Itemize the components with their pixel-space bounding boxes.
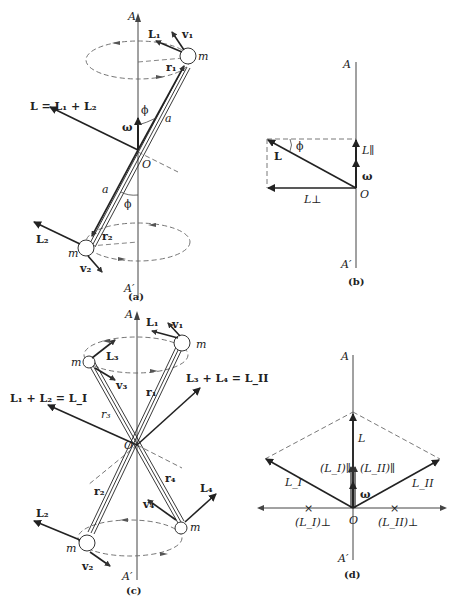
panel-a: A A′ [30, 10, 208, 302]
omega-label: ω [360, 488, 371, 501]
m3-label: m [71, 356, 81, 369]
axis-top-label: A [340, 350, 349, 363]
LII-perp-label: (L_II)⊥ [378, 516, 418, 529]
m-bottom-label: m [68, 247, 78, 260]
axis-top-label: A [127, 10, 136, 23]
axis-bottom-label: A′ [340, 258, 352, 271]
omega-label: ω [122, 121, 133, 134]
caption-b: (b) [348, 276, 364, 287]
r1-label: r₁ [166, 61, 177, 74]
L-label: L [274, 150, 282, 163]
L-par-label: L∥ [361, 144, 374, 157]
caption-c: (c) [126, 585, 142, 596]
r2-label: r₂ [102, 230, 113, 243]
mass-top [180, 48, 196, 64]
v2-label: v₂ [81, 560, 93, 573]
L-total-label: L = L₁ + L₂ [30, 100, 97, 113]
v3-label: v₃ [115, 379, 127, 392]
LII-par-label: (L_II)∥ [360, 462, 395, 475]
L1-label: L₁ [148, 28, 161, 41]
perp-I-mark: × [304, 502, 313, 515]
L-label: L [357, 432, 365, 445]
LI-perp-label: (L_I)⊥ [295, 516, 331, 529]
mass-bottom [78, 240, 94, 256]
v4-label: v₄ [142, 498, 154, 511]
panel-d: A A′ × × L L_I L_II (L_I)∥ (L_II)∥ ω O (… [257, 350, 447, 580]
m2-label: m [66, 542, 76, 555]
r4-label: r₄ [165, 472, 176, 485]
L2-label: L₂ [36, 507, 49, 520]
axis-top-label: A [342, 58, 351, 71]
r1-label: r₁ [146, 386, 157, 399]
sum-II-label: L₃ + L₄ = L_II [186, 372, 268, 386]
v1-label: v₁ [181, 28, 193, 41]
m-top-label: m [198, 50, 208, 63]
L1-label: L₁ [146, 316, 159, 329]
panel-c: A A′ [10, 308, 268, 596]
L3-label: L₃ [106, 350, 119, 363]
axis-bottom-label: A′ [121, 570, 133, 583]
phi-bottom-label: ϕ [124, 198, 132, 211]
omega-label: ω [362, 170, 373, 183]
sum-I-label: L₁ + L₂ = L_I [10, 392, 87, 406]
L-perp-label: L⊥ [303, 193, 322, 206]
phi-top-label: ϕ [141, 104, 149, 117]
origin-label: O [349, 514, 358, 527]
caption-d: (d) [344, 569, 360, 580]
LII-label: L_II [411, 477, 434, 490]
LI-par-label: (L_I)∥ [320, 462, 351, 475]
LI-label: L_I [284, 476, 303, 489]
origin-label: O [142, 158, 151, 171]
r3-label: r₃ [101, 408, 111, 421]
a-top-label: a [165, 112, 172, 125]
v2-label: v₂ [79, 262, 91, 275]
L4-label: L₄ [200, 482, 213, 495]
a-bottom-label: a [102, 183, 109, 196]
m1-label: m [196, 338, 206, 351]
origin-label: O [360, 188, 369, 201]
r2-label: r₂ [94, 485, 105, 498]
rigid-body-angular-momentum-diagram: A A′ [0, 0, 452, 604]
origin-label: O [124, 439, 133, 452]
L2-label: L₂ [36, 233, 49, 246]
panel-b: A A′ L ϕ L∥ ω O L⊥ (b) [267, 58, 374, 287]
v1-label: v₁ [171, 318, 183, 331]
perp-II-mark: × [390, 502, 399, 515]
caption-a: (a) [128, 291, 144, 302]
axis-bottom-label: A′ [337, 552, 349, 565]
m4-label: m [190, 521, 200, 534]
axis-top-label: A [124, 308, 133, 321]
phi-label: ϕ [296, 140, 304, 153]
